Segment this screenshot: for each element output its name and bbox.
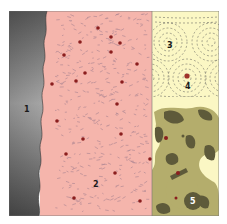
label-3: 3: [167, 41, 173, 50]
red-particle: [96, 26, 100, 30]
red-particle: [120, 80, 124, 84]
red-particle: [113, 171, 117, 175]
red-particle: [64, 152, 68, 156]
red-particle: [118, 41, 122, 45]
red-particle: [72, 196, 76, 200]
panel-divider: [152, 97, 219, 107]
red-particle: [50, 82, 54, 86]
red-particle: [115, 102, 119, 106]
red-particle: [148, 157, 152, 161]
red-particle: [119, 132, 123, 136]
panel-4-particle: [184, 73, 189, 78]
red-particle: [135, 62, 139, 66]
red-particle: [78, 40, 82, 44]
diagram-canvas: 1 2 3 4 5: [9, 11, 219, 216]
red-particle: [74, 79, 78, 83]
red-particle: [62, 53, 66, 57]
red-particle: [81, 137, 85, 141]
red-particle: [109, 50, 113, 54]
red-particle: [55, 119, 59, 123]
diagram-frame: 1 2 3 4 5: [9, 11, 219, 216]
label-4: 4: [185, 82, 191, 91]
label-1: 1: [24, 105, 30, 114]
red-particle: [109, 35, 113, 39]
red-particle: [83, 71, 87, 75]
label-2: 2: [93, 180, 99, 189]
label-5: 5: [190, 197, 196, 206]
panel-5-camouflage: [152, 107, 219, 216]
red-particle: [138, 199, 142, 203]
